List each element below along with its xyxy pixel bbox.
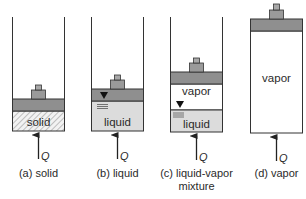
heat-label: Q [120, 150, 129, 162]
weight-lower [270, 10, 284, 19]
weight-upper [194, 58, 200, 63]
heat-label: Q [41, 150, 50, 162]
caption-c-line2: mixture [178, 180, 214, 192]
panel-a-solid: solid Q (a) solid [13, 17, 65, 179]
heat-label: Q [279, 152, 288, 164]
weight-lower [190, 63, 204, 72]
caption-c: (c) liquid-vapor [160, 167, 233, 179]
heat-label: Q [199, 151, 208, 163]
vapor-label: vapor [182, 85, 211, 97]
piston [251, 19, 303, 31]
weight-upper [115, 75, 121, 80]
caption-d: (d) vapor [254, 167, 298, 179]
weight-upper [274, 4, 280, 10]
piston [171, 72, 223, 84]
panel-c-liquid-vapor-mixture: vapor liquid Q (c) liquid-vapor mixture [160, 17, 233, 192]
piston [92, 89, 144, 101]
caption-a: (a) solid [19, 167, 58, 179]
panel-b-liquid: liquid Q (b) liquid [92, 17, 144, 179]
phase-change-diagram: solid Q (a) solid liquid Q (b) liquid va… [0, 0, 306, 199]
weight-lower [111, 80, 125, 89]
vapor-label: vapor [262, 72, 291, 84]
weight-upper [36, 85, 42, 90]
weight-lower [32, 90, 46, 99]
liquid-label: liquid [104, 116, 131, 128]
panel-d-vapor: vapor Q (d) vapor [251, 4, 303, 179]
caption-b: (b) liquid [96, 167, 138, 179]
liquid-label: liquid [183, 118, 210, 130]
piston [13, 99, 65, 111]
solid-label: solid [27, 116, 51, 128]
